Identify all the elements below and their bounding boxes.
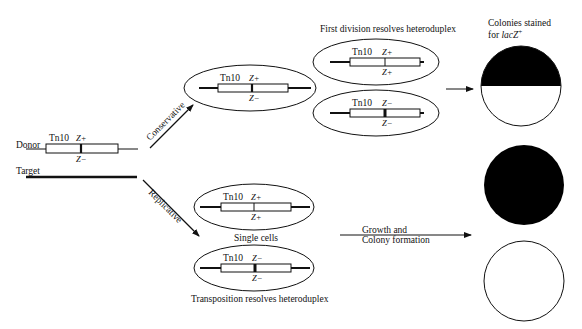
svg-text:Z−: Z− xyxy=(382,98,392,108)
replicative-arrow: Replicative xyxy=(143,180,199,236)
svg-text:Z+: Z+ xyxy=(249,73,259,83)
target-molecule: Target xyxy=(16,166,137,177)
transposition-caption: Transposition resolves heteroduplex xyxy=(191,294,329,304)
first-division-cell-2: Tn10 Z− Z− xyxy=(313,90,439,136)
conservative-product-cell: Tn10 Z+ Z− xyxy=(184,65,316,111)
svg-text:Z+: Z+ xyxy=(382,67,392,77)
replicative-cell-2: Tn10 Z− Z− xyxy=(194,245,314,291)
svg-text:Tn10: Tn10 xyxy=(220,73,240,83)
svg-text:Colony formation: Colony formation xyxy=(362,235,430,245)
colony-sectored xyxy=(481,46,561,126)
donor-molecule: Donor Tn10 Z+ Z− xyxy=(16,133,138,164)
colony-all-white xyxy=(484,241,564,321)
donor-bottom-allele: Z− xyxy=(76,154,86,164)
donor-top-allele: Z+ xyxy=(76,133,86,143)
conservative-label: Conservative xyxy=(144,100,187,143)
target-label: Target xyxy=(16,166,40,176)
replicative-cell-1: Tn10 Z+ Z+ xyxy=(194,184,314,230)
transposition-diagram: Donor Tn10 Z+ Z− Target Conservative Rep… xyxy=(0,0,582,329)
first-division-cell-1: Tn10 Z+ Z+ xyxy=(313,39,439,85)
svg-text:Z−: Z− xyxy=(382,118,392,128)
svg-text:Z−: Z− xyxy=(252,253,262,263)
svg-text:Z+: Z+ xyxy=(382,47,392,57)
svg-text:Z+: Z+ xyxy=(251,192,261,202)
replicative-label: Replicative xyxy=(147,187,185,225)
single-cells-caption: Single cells xyxy=(234,233,278,243)
svg-text:Z−: Z− xyxy=(252,273,262,283)
colonies-heading-line1: Colonies stained xyxy=(488,18,551,28)
conservative-arrow: Conservative xyxy=(144,100,193,148)
svg-text:Tn10: Tn10 xyxy=(223,192,243,202)
growth-arrow: Growth and Colony formation xyxy=(340,225,471,245)
svg-text:Tn10: Tn10 xyxy=(352,47,372,57)
first-division-heading: First division resolves heteroduplex xyxy=(320,24,456,34)
svg-text:Z+: Z+ xyxy=(251,212,261,222)
svg-text:Z−: Z− xyxy=(249,93,259,103)
donor-element: Tn10 xyxy=(49,133,69,143)
svg-text:Tn10: Tn10 xyxy=(352,98,372,108)
colonies-heading-line2: for lacZ+ xyxy=(488,28,522,40)
svg-text:Tn10: Tn10 xyxy=(223,253,243,263)
colony-all-blue xyxy=(484,145,564,225)
svg-text:Growth and: Growth and xyxy=(362,225,407,235)
